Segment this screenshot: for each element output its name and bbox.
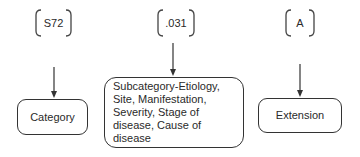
extension-box: Extension	[258, 98, 342, 133]
code-bracket-s72: S72	[35, 9, 72, 37]
arrow-down-icon	[49, 67, 59, 99]
arrow-down-icon	[295, 64, 305, 98]
code-text-031: .031	[165, 17, 186, 29]
code-bracket-a: A	[285, 9, 315, 37]
code-text-a: A	[296, 17, 303, 29]
category-box: Category	[17, 99, 88, 135]
code-bracket-031: .031	[157, 9, 195, 37]
subcategory-box: Subcategory-Etiology, Site, Manifestatio…	[104, 77, 244, 148]
arrow-down-icon	[168, 43, 178, 77]
extension-label: Extension	[276, 109, 324, 122]
subcategory-label: Subcategory-Etiology, Site, Manifestatio…	[113, 80, 237, 145]
category-label: Category	[30, 111, 75, 124]
code-text-s72: S72	[44, 17, 64, 29]
